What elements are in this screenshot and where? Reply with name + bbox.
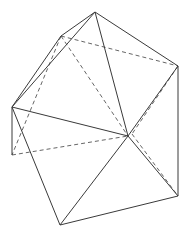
edge-C-LR: [128, 136, 178, 196]
edge-T-UL: [61, 12, 95, 36]
edge-R-C: [128, 66, 178, 136]
hidden-edge-C2-LR: [132, 134, 178, 196]
edge-T-L: [12, 12, 95, 107]
hidden-edge-LL-C: [12, 136, 128, 155]
edge-C-B: [60, 136, 128, 225]
hidden-edges: [12, 36, 178, 196]
edge-L-C: [12, 107, 128, 136]
edge-B-LR: [60, 196, 178, 225]
polyhedron-diagram: [0, 0, 185, 242]
visible-edges: [12, 12, 178, 225]
edge-L-B: [12, 107, 60, 225]
